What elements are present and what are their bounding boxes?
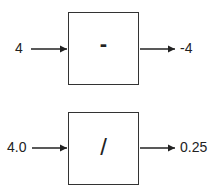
operator-box-negate: - — [68, 12, 139, 85]
output-value-1: -4 — [180, 40, 192, 56]
operator-symbol-2: / — [69, 133, 138, 161]
operator-symbol-1: - — [69, 31, 138, 57]
operator-box-divide: / — [68, 112, 139, 185]
input-value-1: 4 — [15, 40, 23, 56]
output-value-2: 0.25 — [180, 139, 207, 155]
input-value-2: 4.0 — [7, 139, 26, 155]
